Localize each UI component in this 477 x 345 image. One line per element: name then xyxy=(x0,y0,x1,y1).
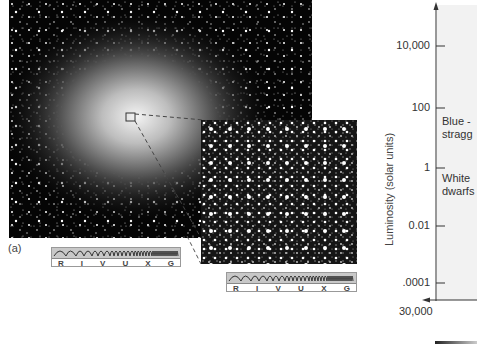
spectrum-letter-x: X xyxy=(321,284,326,293)
spectrum-bar: R I V U X G xyxy=(226,272,357,292)
y-tick-0.01: 0.01 xyxy=(370,219,430,231)
temperature-color-bar xyxy=(435,341,477,344)
spectrum-letter-x: X xyxy=(145,259,150,268)
inset-star-field xyxy=(201,120,357,264)
spectrum-bar: R I V U X G xyxy=(51,247,181,267)
wavelength-wave-icon xyxy=(52,248,180,259)
spectrum-letter-g: G xyxy=(344,284,350,293)
spectrum-letter-u: U xyxy=(123,259,129,268)
annotation-blue-stragglers: Blue - stragg xyxy=(442,115,473,141)
annotation-white-dwarfs: White dwarfs xyxy=(442,172,474,198)
y-tick-10000: 10,000 xyxy=(370,39,430,51)
spectrum-letter-r: R xyxy=(233,284,239,293)
spectrum-letter-r: R xyxy=(58,259,64,268)
y-axis-title: Luminosity (solar units) xyxy=(383,133,395,246)
spectrum-letter-v: V xyxy=(100,259,105,268)
x-axis-arrow-icon xyxy=(422,298,430,303)
x-tick-30000: 30,000 xyxy=(399,305,433,317)
y-tick-100: 100 xyxy=(370,101,430,113)
panel-label: (a) xyxy=(8,242,21,254)
spectrum-letter-i: I xyxy=(81,259,83,268)
spectrum-letter-u: U xyxy=(298,284,304,293)
spectrum-letter-g: G xyxy=(168,259,174,268)
y-axis-arrow-icon xyxy=(434,2,439,10)
spectrum-letter-v: V xyxy=(276,284,281,293)
wavelength-wave-icon xyxy=(227,273,356,284)
inset-photo xyxy=(201,120,357,264)
y-tick-1: 1 xyxy=(370,161,430,173)
spectrum-letter-i: I xyxy=(256,284,258,293)
y-tick-0.0001: .0001 xyxy=(370,276,430,288)
